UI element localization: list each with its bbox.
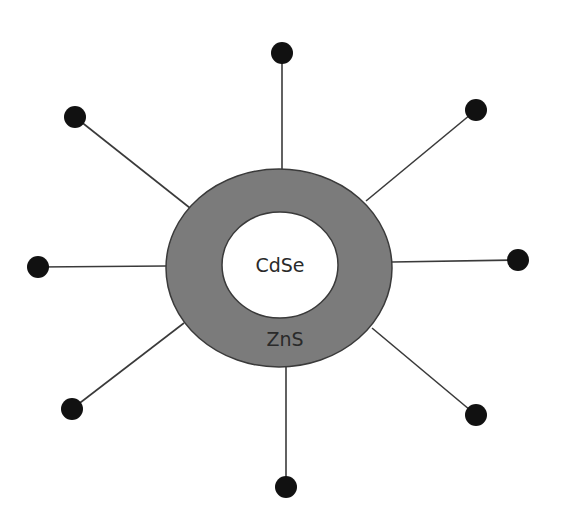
core-label: CdSe <box>255 254 304 276</box>
ligand-line-right <box>392 260 518 262</box>
ligand-head-top-left <box>64 106 86 128</box>
ligand-head-bottom-right <box>465 404 487 426</box>
ligand-line-top-left <box>75 117 190 208</box>
ligand-line-bottom-right <box>372 328 476 415</box>
ligand-line-top-right <box>366 110 476 201</box>
ligand-head-top <box>271 42 293 64</box>
ligand-line-bottom-left <box>72 323 184 409</box>
shell-label: ZnS <box>266 328 303 350</box>
ligand-head-bottom-left <box>61 398 83 420</box>
ligand-head-right <box>507 249 529 271</box>
ligand-head-left <box>27 256 49 278</box>
ligand-line-left <box>38 266 166 267</box>
ligand-head-top-right <box>465 99 487 121</box>
quantum-dot-diagram: CdSe ZnS <box>0 0 561 518</box>
ligand-head-bottom <box>275 476 297 498</box>
